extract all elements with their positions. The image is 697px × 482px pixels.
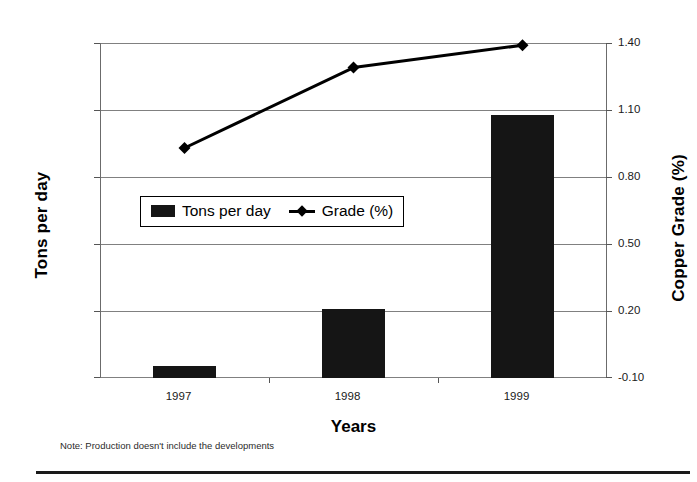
line-diamond-icon: [289, 205, 315, 217]
grade-data-markers: [179, 39, 529, 154]
x-tick-label-1999: 1999: [458, 390, 575, 402]
right-axis-title: Copper Grade (%): [669, 133, 689, 323]
plot-area: Tons per day Grade (%): [100, 43, 607, 378]
chart-figure: Tons per day Copper Grade (%) 10,000 8,0…: [0, 0, 697, 482]
legend-label-grade: Grade (%): [322, 202, 394, 220]
x-tick-separator-2: [438, 378, 439, 383]
right-tick-label-080: 0.80: [618, 170, 640, 182]
x-tick-label-1998: 1998: [289, 390, 406, 402]
right-tick-label-neg010: -0.10: [618, 371, 644, 383]
grade-line-path: [185, 45, 523, 148]
x-tick-separator-1: [269, 378, 270, 383]
legend-entry-tons-per-day: Tons per day: [151, 202, 271, 220]
right-tick-label-110: 1.10: [618, 103, 640, 115]
legend-label-tons-per-day: Tons per day: [182, 202, 271, 220]
right-tick-label-020: 0.20: [618, 304, 640, 316]
grade-marker-1998: [348, 62, 360, 74]
bar-swatch-icon: [151, 205, 175, 217]
right-tick-label-050: 0.50: [618, 237, 640, 249]
chart-note: Note: Production doesn't include the dev…: [60, 440, 274, 451]
bottom-divider: [36, 471, 690, 474]
x-tick-label-1997: 1997: [120, 390, 237, 402]
legend-entry-grade: Grade (%): [289, 202, 394, 220]
chart-legend: Tons per day Grade (%): [140, 196, 404, 227]
left-axis-title: Tons per day: [32, 145, 52, 305]
grade-marker-1999: [517, 39, 529, 51]
grade-marker-1997: [179, 142, 191, 154]
right-tick-label-140: 1.40: [618, 36, 640, 48]
x-axis-title: Years: [100, 417, 607, 437]
